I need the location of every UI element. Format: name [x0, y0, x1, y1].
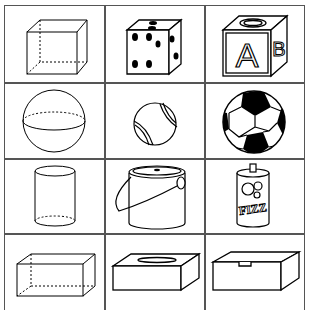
cell-soda-can: soda-can FIZZ — [205, 159, 305, 233]
cell-tissue-box: tissue-box — [105, 234, 204, 310]
soccer-ball-icon — [205, 83, 305, 158]
letter-b: B — [272, 38, 285, 60]
alphabet-block-icon: A B — [205, 6, 305, 82]
cell-sphere: sphere — [5, 83, 104, 158]
cell-paint-can: paint-can — [105, 159, 204, 233]
tissue-box-icon — [105, 234, 204, 310]
cylinder-icon — [5, 159, 104, 233]
cell-soccer-ball: soccer-ball — [205, 83, 305, 158]
cell-shoe-box: shoe-box — [205, 234, 305, 310]
cell-alphabet-block: alphabet-block A B — [205, 6, 305, 82]
shoe-box-icon — [205, 234, 305, 310]
tennis-ball-icon — [105, 83, 204, 158]
cell-die: die — [105, 6, 204, 82]
soda-can-icon: FIZZ — [205, 159, 305, 233]
letter-a: A — [236, 36, 259, 74]
cube-icon — [5, 6, 104, 82]
cell-rectangular-prism: rectangular-prism — [5, 234, 104, 310]
cell-cube: cube — [5, 6, 104, 82]
cell-tennis-ball: tennis-ball — [105, 83, 204, 158]
sphere-icon — [5, 83, 104, 158]
rectangular-prism-icon — [5, 234, 104, 310]
cell-cylinder: cylinder — [5, 159, 104, 233]
paint-can-icon — [105, 159, 204, 233]
die-icon — [105, 6, 204, 82]
